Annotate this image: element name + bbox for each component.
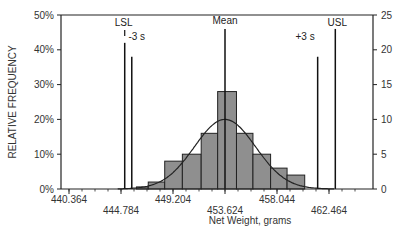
x-tick-label: 462.464 — [311, 205, 348, 216]
ref-label: -3 s — [128, 31, 145, 42]
y-tick-label-right: 0 — [381, 184, 387, 195]
y-tick-label-right: 20 — [381, 44, 393, 55]
histogram-chart: LSL-3 sMean+3 sUSL 0%10%20%30%40%50% 051… — [0, 0, 411, 243]
y-tick-label-left: 40% — [34, 44, 54, 55]
x-tick-label: 449.204 — [155, 194, 192, 205]
ref-label: LSL — [115, 17, 133, 28]
histogram-bar — [253, 154, 271, 189]
right-y-ticks: 0510152025 — [373, 10, 393, 195]
ref-label: Mean — [212, 15, 237, 26]
histogram-bar — [236, 133, 252, 189]
left-y-ticks: 0%10%20%30%40%50% — [34, 10, 61, 195]
x-tick-label: 444.784 — [103, 205, 140, 216]
y-tick-label-right: 10 — [381, 114, 393, 125]
y-tick-label-left: 30% — [34, 79, 54, 90]
x-tick-label: 440.364 — [51, 194, 88, 205]
y-tick-label-left: 20% — [34, 114, 54, 125]
y-tick-label-right: 25 — [381, 10, 393, 21]
y-tick-label-right: 15 — [381, 79, 393, 90]
y-tick-label-left: 50% — [34, 10, 54, 21]
y-tick-label-left: 0% — [40, 184, 55, 195]
y-tick-label-left: 10% — [34, 149, 54, 160]
x-axis-title: Net Weight, grams — [209, 215, 292, 226]
histogram-bar — [201, 133, 217, 189]
x-tick-label: 458.044 — [259, 194, 296, 205]
x-ticks: 440.364444.784449.204453.624458.044462.4… — [51, 189, 355, 216]
y-axis-title: RELATIVE FREQUENCY — [7, 45, 18, 158]
histogram-bar — [218, 92, 237, 189]
y-tick-label-right: 5 — [381, 149, 387, 160]
ref-label: +3 s — [295, 31, 314, 42]
ref-label: USL — [328, 17, 348, 28]
